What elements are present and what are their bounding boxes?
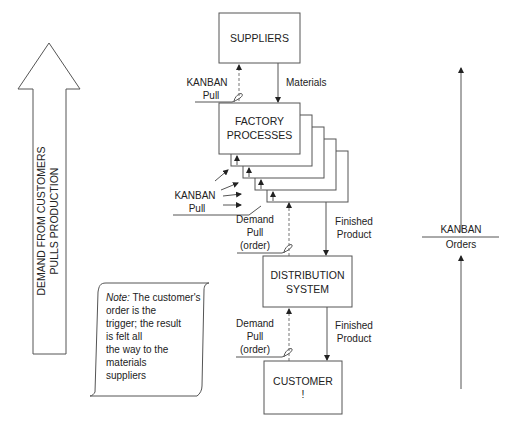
kanban-pointer-1	[215, 170, 228, 181]
demand-pull-big-arrow: DEMAND FROM CUSTOMERS PULLS PRODUCTION	[18, 43, 80, 354]
finished-product-2-label-a: Finished	[335, 320, 373, 331]
suppliers-label: SUPPLIERS	[230, 32, 289, 44]
big-arrow-label-line2: PULLS PRODUCTION	[48, 168, 60, 275]
kanban-pull-top-label-2: Pull	[203, 90, 220, 101]
note-line5: the way to the	[106, 344, 169, 355]
kanban-pointer-3	[223, 194, 241, 196]
note-line6: materials	[106, 357, 147, 368]
kanban-pull-mid-label-1: KANBAN	[174, 190, 215, 201]
note-line4: is felt all	[106, 331, 142, 342]
finished-product-1-label-b: Product	[337, 229, 372, 240]
materials-label: Materials	[286, 77, 327, 88]
kanban-pointer-2	[221, 183, 238, 190]
note-line1-rest: The customer's	[130, 292, 201, 303]
finished-product-2-label-b: Product	[337, 333, 372, 344]
distribution-label-line1: DISTRIBUTION	[270, 269, 344, 281]
distribution-node: DISTRIBUTION SYSTEM	[263, 256, 352, 307]
note-prefix: Note:	[106, 292, 130, 303]
note-line1: Note: The customer's	[106, 292, 201, 303]
kanban-axis-label: KANBAN	[440, 224, 481, 235]
kanban-orders-axis: KANBAN Orders	[422, 68, 499, 389]
note-line2: order is the	[106, 305, 156, 316]
note-line3: trigger; the result	[106, 318, 181, 329]
customer-label-line2: !	[302, 388, 305, 400]
demand-pull-2-label-a: Demand	[236, 318, 274, 329]
finished-product-1-label-a: Finished	[335, 216, 373, 227]
demand-pull-2-label-b: Pull	[247, 331, 264, 342]
kanban-pull-mid-label-2: Pull	[189, 203, 206, 214]
factory-processes-stack: FACTORY PROCESSES	[219, 103, 348, 202]
kanban-pull-top-label-1: KANBAN	[186, 77, 227, 88]
suppliers-node: SUPPLIERS	[219, 13, 300, 63]
note-line7: suppliers	[106, 370, 146, 381]
orders-axis-label: Orders	[446, 239, 477, 250]
big-arrow-label-line1: DEMAND FROM CUSTOMERS	[35, 146, 47, 295]
kanban-pull-diagram: DEMAND FROM CUSTOMERS PULLS PRODUCTION S…	[0, 0, 511, 425]
demand-pull-2-label-c: (order)	[240, 344, 270, 355]
demand-pull-1-label-a: Demand	[236, 214, 274, 225]
note-callout: Note: The customer's order is the trigge…	[90, 283, 209, 396]
distribution-label-line2: SYSTEM	[286, 283, 329, 295]
demand-pull-1-label-c: (order)	[240, 240, 270, 251]
customer-label-line1: CUSTOMER	[273, 375, 333, 387]
customer-node: CUSTOMER !	[264, 361, 342, 414]
demand-pull-1-label-b: Pull	[247, 227, 264, 238]
distribution-box	[263, 256, 352, 307]
factory-label-line2: PROCESSES	[227, 129, 292, 141]
factory-label-line1: FACTORY	[235, 115, 284, 127]
